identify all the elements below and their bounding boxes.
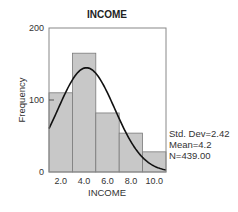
stats-box: Std. Dev=2.42 Mean=4.2 N=439.00 (169, 128, 229, 161)
x-axis-ticks: 2.04.06.08.010.0 (54, 176, 163, 186)
x-tick-label: 8.0 (125, 176, 138, 186)
x-axis-label: INCOME (88, 187, 126, 198)
bars (49, 53, 166, 172)
histogram-bar (96, 113, 119, 172)
std-dev-stat: Std. Dev=2.42 (169, 128, 229, 139)
mean-stat: Mean=4.2 (169, 139, 229, 150)
n-stat: N=439.00 (169, 150, 229, 161)
x-tick-label: 6.0 (101, 176, 114, 186)
y-tick-label: 100 (29, 95, 44, 105)
y-axis-label: Frequency (16, 77, 27, 122)
y-tick-label: 0 (39, 167, 44, 177)
chart-title: INCOME (87, 9, 127, 20)
x-tick-label: 4.0 (78, 176, 91, 186)
x-tick-label: 2.0 (54, 176, 67, 186)
x-tick-label: 10.0 (146, 176, 164, 186)
histogram-chart: INCOME 0100200 2.04.06.08.010.0 INCOME F… (0, 0, 238, 212)
y-tick-label: 200 (29, 23, 44, 33)
